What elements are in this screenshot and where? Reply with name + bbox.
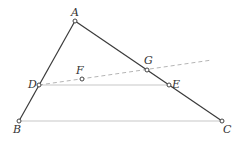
segment-ab <box>19 21 75 121</box>
label-b: B <box>12 123 21 136</box>
label-a: A <box>70 6 79 19</box>
geometry-diagram: A B C D E F G <box>0 0 241 144</box>
point-g <box>145 68 149 72</box>
label-d: D <box>27 78 37 91</box>
dashed-line-dfg <box>39 60 212 85</box>
point-f <box>80 77 84 81</box>
label-f: F <box>75 64 84 77</box>
label-e: E <box>171 78 180 91</box>
point-a <box>73 19 77 23</box>
label-g: G <box>144 54 153 67</box>
point-d <box>37 83 41 87</box>
label-c: C <box>223 123 232 136</box>
point-e <box>167 83 171 87</box>
